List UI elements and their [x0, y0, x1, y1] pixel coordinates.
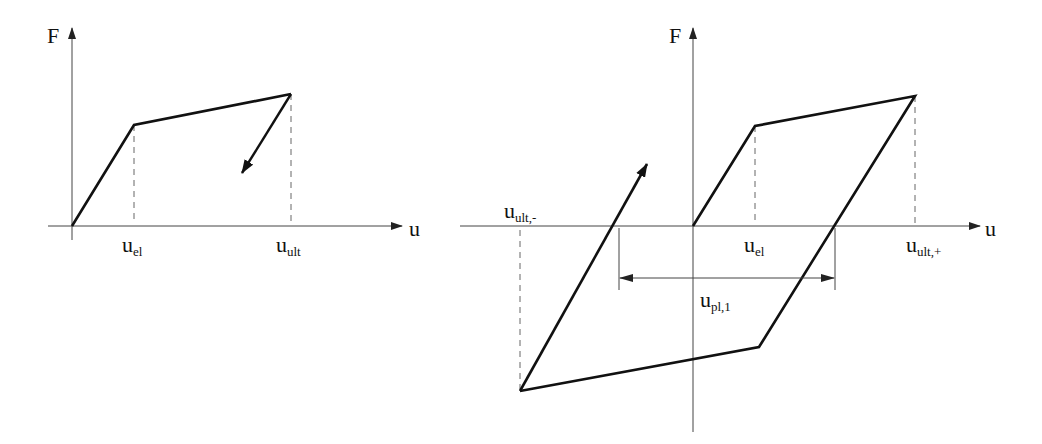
left-x-axis-label: u	[409, 216, 420, 241]
right-diagram: F u uult,- uel uult,+ upl,1	[460, 23, 996, 432]
label-u-ult-pos: uult,+	[906, 232, 941, 259]
left-loading-curve	[72, 94, 291, 226]
right-x-axis-label: u	[985, 216, 996, 241]
label-u-ult-neg: uult,-	[504, 198, 536, 225]
left-diagram: F u uel uult	[47, 23, 420, 259]
label-u-pl-1: upl,1	[700, 287, 731, 314]
hysteresis-loop	[520, 96, 915, 391]
right-y-axis-label: F	[669, 23, 681, 48]
label-u-el-right: uel	[744, 232, 765, 259]
left-unloading-arrow	[242, 94, 291, 173]
label-u-el-left: uel	[122, 232, 143, 259]
label-u-ult-left: uult	[276, 232, 301, 259]
diagram-canvas: F u uel uult F u uult,- uel uult,+ upl,1	[0, 0, 1042, 444]
left-y-axis-label: F	[47, 23, 59, 48]
